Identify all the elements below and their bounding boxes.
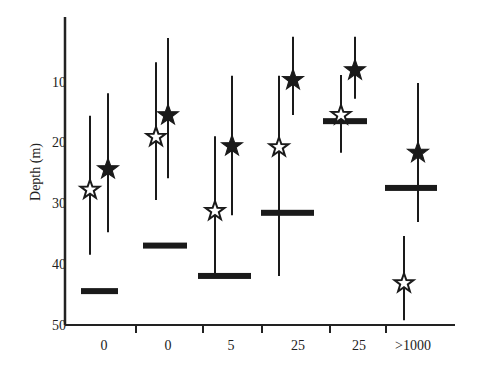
- y-tick-label: 30: [52, 196, 66, 211]
- bar-marker: [143, 243, 187, 249]
- depth-chart: 1020304050 0052525>1000 Depth (m): [0, 0, 477, 368]
- bar-marker: [81, 288, 118, 294]
- x-tick-label: 5: [228, 338, 235, 353]
- group-1: [143, 38, 187, 249]
- x-tick-label: 25: [352, 338, 366, 353]
- x-ticks: [136, 325, 386, 333]
- y-tick-label: 40: [52, 257, 66, 272]
- plot-area: [80, 37, 437, 320]
- x-tick-label: 0: [101, 338, 108, 353]
- y-tick-label: 10: [52, 75, 66, 90]
- group-5: [385, 83, 437, 320]
- group-3: [261, 37, 314, 276]
- group-4: [323, 37, 367, 153]
- y-tick-label: 50: [52, 318, 66, 333]
- y-tick-label: 20: [52, 135, 66, 150]
- x-tick-label: 25: [291, 338, 305, 353]
- x-tick-labels: 0052525>1000: [101, 338, 431, 353]
- x-tick-label: 0: [165, 338, 172, 353]
- group-0: [80, 93, 118, 294]
- bar-marker: [198, 273, 251, 279]
- bar-marker: [385, 185, 437, 191]
- x-tick-label: >1000: [395, 338, 431, 353]
- group-2: [198, 76, 251, 279]
- bar-marker: [261, 210, 314, 216]
- y-axis-title: Depth (m): [28, 143, 44, 201]
